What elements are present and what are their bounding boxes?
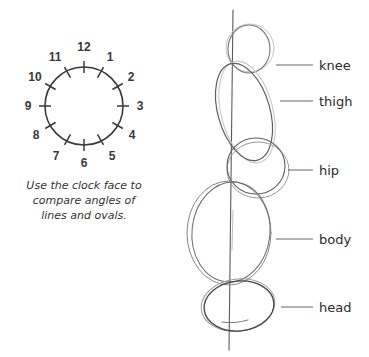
clock-caption: Use the clock face to compare angles of … (4, 178, 164, 223)
head-oval (198, 274, 279, 336)
label-body: body (319, 232, 351, 247)
clock-number-2: 2 (128, 70, 135, 84)
clock-number-5: 5 (109, 149, 116, 163)
clock-number-12: 12 (77, 40, 91, 54)
label-hip: hip (319, 163, 339, 178)
clock-face: 12 1 2 3 4 5 6 7 8 9 10 11 (25, 40, 144, 170)
clock-number-8: 8 (33, 128, 40, 142)
clock-circle (45, 67, 123, 145)
clock-number-11: 11 (49, 50, 62, 64)
clock-number-9: 9 (25, 99, 32, 113)
clock-number-10: 10 (28, 70, 42, 84)
clock-number-6: 6 (81, 156, 88, 170)
sketched-figure (187, 10, 289, 350)
caption-line-1: Use the clock face to (4, 178, 164, 193)
label-knee: knee (319, 58, 351, 73)
hip-oval (227, 138, 289, 198)
leader-lines (276, 65, 313, 307)
clock-number-3: 3 (137, 99, 144, 113)
caption-line-2: compare angles of (4, 193, 164, 208)
clock-number-4: 4 (129, 128, 136, 142)
clock-number-7: 7 (53, 149, 60, 163)
caption-line-3: lines and ovals. (4, 208, 164, 223)
label-thigh: thigh (319, 94, 352, 109)
clock-number-1: 1 (107, 50, 114, 64)
label-head: head (319, 300, 351, 315)
clock-ticks (39, 61, 129, 151)
